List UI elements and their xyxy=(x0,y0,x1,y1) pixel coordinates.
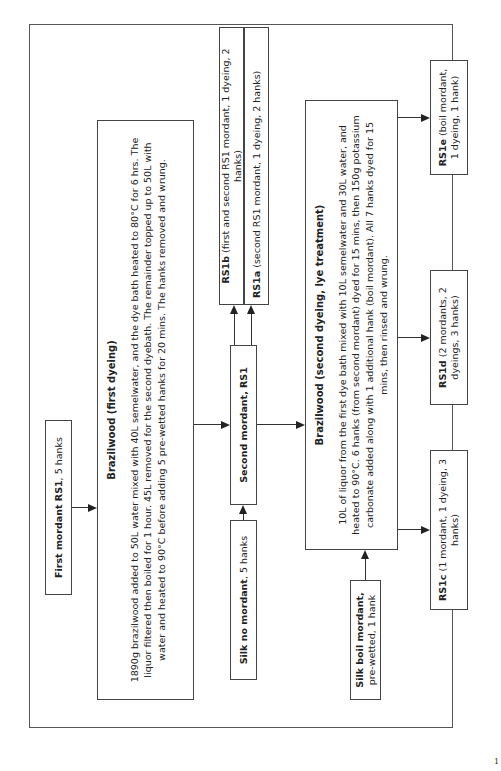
node-silk-boil-mordant: Silk boil mordant, pre-wetted, 1 hank xyxy=(350,580,381,700)
node-brazilwood-first-dyeing: Brazilwood (first dyeing) 1890g brazilwo… xyxy=(97,120,194,700)
arrow-down-icon xyxy=(421,526,430,534)
node-rs1b: RS1b (first and second RS1 mordant, 1 dy… xyxy=(219,27,244,305)
node-brazilwood-second-dyeing: Brazilwood (second dyeing, lye treatment… xyxy=(305,100,398,550)
node-second-mordant: Second mordant, RS1 xyxy=(230,345,257,505)
node-label-text: pre-wetted, 1 hank xyxy=(366,595,378,685)
node-label-bold: Silk boil mordant, xyxy=(354,592,366,687)
arrow-right-icon xyxy=(230,305,238,314)
arrow-right-icon xyxy=(361,550,369,559)
node-description: 1890g brazilwood added to 50L water mixe… xyxy=(128,131,169,689)
node-description: 10L of liquor from the first dye bath mi… xyxy=(336,111,391,539)
node-rs1c: RS1c (1 mordant, 1 dyeing, 3 hanks) xyxy=(430,450,468,610)
connector xyxy=(398,337,421,338)
connector xyxy=(243,514,244,520)
arrow-down-icon xyxy=(296,421,305,429)
node-label-bold: RS1e xyxy=(437,139,448,166)
node-label-bold: RS1a xyxy=(251,271,262,298)
page-number: 1 xyxy=(494,757,499,766)
node-label-text: (first and second RS1 mordant, 1 dyeing,… xyxy=(220,48,243,256)
connector xyxy=(398,117,421,118)
node-label-bold: First mordant RS1 xyxy=(53,480,64,578)
connector xyxy=(194,424,221,425)
node-title: Brazilwood (first dyeing) xyxy=(106,340,119,479)
arrow-down-icon xyxy=(88,504,97,512)
node-label-bold: Silk no mordant xyxy=(238,579,249,664)
node-silk-no-mordant: Silk no mordant, 5 hanks xyxy=(230,520,257,680)
node-label-bold: RS1b xyxy=(220,256,231,284)
node-label-bold: RS1d xyxy=(437,360,448,388)
node-label-bold: RS1c xyxy=(437,575,448,601)
node-label-text: , 5 hanks xyxy=(238,536,249,579)
arrow-down-icon xyxy=(421,334,430,342)
flowchart-canvas: First mordant RS1, 5 hanks Brazilwood (f… xyxy=(0,0,501,771)
connector xyxy=(398,529,421,530)
node-rs1d: RS1d (2 mordants, 2 dyeings, 3 hanks) xyxy=(430,270,468,405)
node-label-text: (second RS1 mordant, 1 dyeing, 2 hanks) xyxy=(251,71,262,271)
node-rs1e: RS1e (boil mordant, 1 dyeing, 1 hank) xyxy=(430,60,468,175)
node-rs1a: RS1a (second RS1 mordant, 1 dyeing, 2 ha… xyxy=(244,27,269,305)
connector xyxy=(365,559,366,580)
connector xyxy=(234,314,235,345)
arrow-right-icon xyxy=(247,305,255,314)
arrow-down-icon xyxy=(421,114,430,122)
connector xyxy=(72,507,88,508)
arrow-right-icon xyxy=(239,505,247,514)
node-label-bold: Second mordant, RS1 xyxy=(238,367,250,483)
node-first-mordant: First mordant RS1, 5 hanks xyxy=(45,420,72,595)
node-label-text: (1 mordant, 1 dyeing, 3 hanks) xyxy=(437,459,460,575)
connector xyxy=(251,314,252,345)
arrow-down-icon xyxy=(221,421,230,429)
connector xyxy=(257,424,296,425)
node-label-text: , 5 hanks xyxy=(53,437,64,480)
node-title: Brazilwood (second dyeing, lye treatment… xyxy=(314,205,327,446)
